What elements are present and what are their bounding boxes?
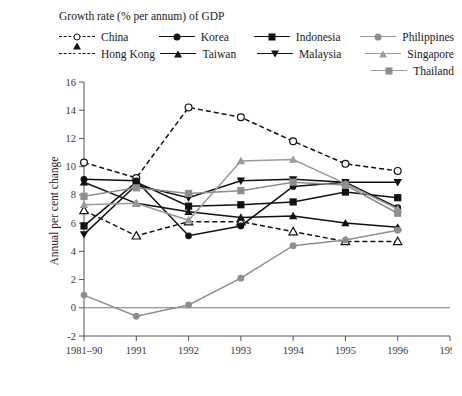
circle-icon — [375, 33, 382, 40]
legend-key-singapore — [365, 48, 401, 60]
y-tick-label: 2 — [71, 274, 76, 285]
square-icon — [386, 67, 393, 74]
triangle-up-icon — [379, 50, 387, 57]
y-tick-label: 6 — [71, 218, 76, 229]
legend-row: Hong Kong Taiwan Malaysia Singapore — [59, 45, 454, 62]
legend-key-korea — [159, 31, 195, 43]
y-tick-label: 14 — [66, 105, 77, 116]
plot-area: 1614121086420-21981–90199119921993199419… — [62, 78, 452, 360]
chart-svg: 1614121086420-21981–90199119921993199419… — [62, 78, 452, 360]
y-tick-label: 10 — [66, 161, 77, 172]
legend-label: Singapore — [407, 48, 454, 60]
legend-item-korea[interactable]: Korea — [159, 31, 254, 43]
legend-key-indonesia — [254, 31, 290, 43]
legend-key-china — [59, 31, 95, 43]
legend-item-thailand[interactable]: Thailand — [371, 65, 454, 77]
square-icon — [268, 33, 275, 40]
legend-key-malaysia — [257, 48, 293, 60]
legend-label: Korea — [201, 31, 229, 43]
series-china — [81, 104, 402, 181]
legend-item-philippines[interactable]: Philippines — [360, 31, 454, 43]
legend-key-thailand — [371, 65, 407, 77]
legend-item-taiwan[interactable]: Taiwan — [160, 48, 257, 60]
x-tick-label: 1994 — [283, 345, 305, 356]
legend-item-indonesia[interactable]: Indonesia — [254, 31, 360, 43]
x-tick-label: 1995 — [335, 345, 356, 356]
legend-item-china[interactable]: China — [59, 31, 159, 43]
legend-key-philippines — [360, 31, 396, 43]
legend-key-taiwan — [160, 48, 196, 60]
legend-label: Thailand — [413, 65, 454, 77]
legend-row: Thailand — [59, 62, 454, 79]
triangle-up-icon — [174, 50, 182, 57]
legend-label: Taiwan — [202, 48, 236, 60]
legend-item-hong-kong[interactable]: Hong Kong — [59, 48, 160, 60]
x-tick-label: 1996 — [387, 345, 408, 356]
triangle-open-icon — [73, 50, 81, 57]
legend-item-malaysia[interactable]: Malaysia — [257, 48, 365, 60]
legend: China Korea Indonesia Philippines — [59, 28, 454, 79]
legend-label: China — [101, 31, 128, 43]
y-tick-label: -2 — [67, 331, 76, 342]
x-tick-label: 1997 — [440, 345, 453, 356]
y-tick-label: 8 — [71, 189, 76, 200]
y-tick-label: 0 — [71, 302, 76, 313]
legend-label: Hong Kong — [101, 48, 155, 60]
x-tick-label: 1993 — [230, 345, 251, 356]
circle-open-icon — [74, 33, 81, 40]
legend-item-singapore[interactable]: Singapore — [365, 48, 454, 60]
triangle-down-icon — [271, 50, 279, 57]
y-tick-label: 16 — [66, 78, 77, 88]
legend-label: Malaysia — [299, 48, 341, 60]
figure: Growth rate (% per annum) of GDP China K… — [0, 0, 462, 396]
x-tick-label: 1991 — [126, 345, 147, 356]
y-tick-label: 12 — [66, 133, 77, 144]
legend-label: Philippines — [402, 31, 454, 43]
x-tick-label: 1992 — [178, 345, 199, 356]
legend-label: Indonesia — [296, 31, 341, 43]
y-tick-label: 4 — [71, 246, 77, 257]
series-philippines — [81, 227, 402, 320]
legend-row: China Korea Indonesia Philippines — [59, 28, 454, 45]
legend-title: Growth rate (% per annum) of GDP — [59, 10, 224, 22]
circle-icon — [173, 33, 180, 40]
legend-key-hong-kong — [59, 48, 95, 60]
x-tick-label: 1981–90 — [66, 345, 103, 356]
y-axis-label: Annual per cent change — [48, 121, 60, 301]
